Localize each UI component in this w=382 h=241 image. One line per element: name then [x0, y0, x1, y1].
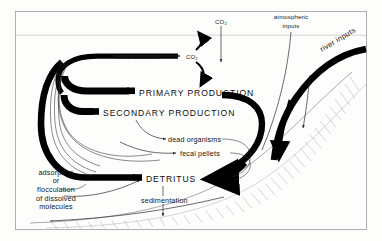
- dead-organisms-callout: [136, 120, 166, 139]
- secondary-production-marker: [91, 108, 99, 115]
- dead-organisms-label: dead organisms: [168, 135, 221, 144]
- co2-mid-label: CO₂: [186, 53, 198, 60]
- secondary-production-label: SECONDARY PRODUCTION: [103, 108, 235, 118]
- primary-to-detritus-curve: [222, 95, 262, 168]
- atmospheric-inputs-label-line2: inputs: [283, 22, 300, 29]
- mineralization-label: mineralization: [114, 52, 160, 61]
- primary-production-band: [65, 76, 130, 91]
- detritus-label: DETRITUS: [146, 174, 196, 184]
- co2-top-label: CO₂: [215, 18, 227, 25]
- detritus-marker: [133, 174, 142, 181]
- detritus-inflow-arrow: [208, 163, 245, 179]
- sedimentation-label: sedimentation: [141, 196, 188, 205]
- primary-production-marker: [127, 88, 135, 95]
- secondary-production-band: [64, 95, 93, 112]
- fecal-pellets-callout: [120, 142, 176, 153]
- fecal-pellets-label: fecal pellets: [180, 149, 220, 158]
- adsorption-label-line5: molecules: [39, 202, 73, 211]
- co2-uptake-curve: [196, 62, 204, 85]
- co2-release-curve: [196, 33, 202, 50]
- diagram-canvas: CO₂ atmospheric inputs river inputs mine…: [0, 0, 382, 241]
- carbon-flow-figure: CO₂ atmospheric inputs river inputs mine…: [0, 0, 382, 241]
- atmospheric-inputs-label-line1: atmospheric: [274, 13, 308, 20]
- primary-production-label: PRIMARY PRODUCTION: [139, 88, 254, 98]
